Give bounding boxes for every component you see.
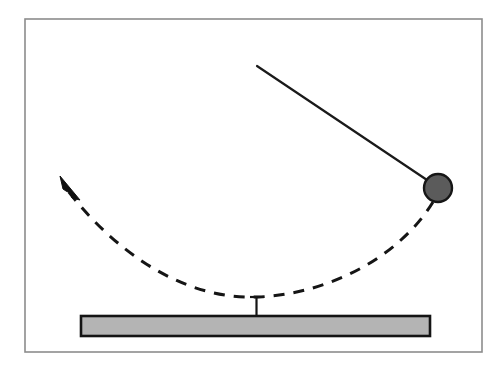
- diagram-canvas: [0, 0, 504, 370]
- pendulum-bob: [424, 174, 452, 202]
- pendulum-diagram: [0, 0, 504, 370]
- base-bar: [81, 316, 430, 336]
